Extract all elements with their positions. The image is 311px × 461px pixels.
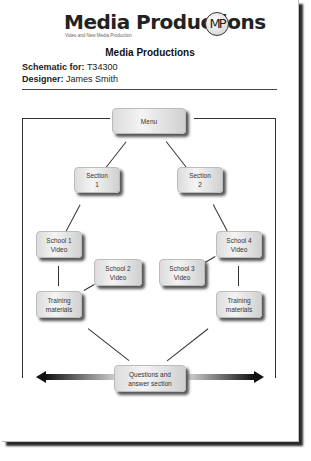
logo-text: Media Productions: [64, 10, 266, 34]
arrow-right-shaft: [184, 374, 254, 380]
node-label: School 1: [37, 236, 81, 245]
frame-top-right: [194, 118, 276, 119]
node-label: 2: [178, 180, 222, 189]
node-label: Training: [217, 296, 261, 305]
node-questions-answer-section: Questions and answer section: [114, 365, 186, 392]
frame-top-left: [22, 118, 110, 119]
node-school-4-video: School 4 Video: [216, 231, 262, 258]
node-label: Menu: [113, 117, 185, 126]
designer-value: James Smith: [66, 74, 118, 84]
schematic-label: Schematic for:: [22, 62, 85, 72]
designer-label: Designer:: [22, 74, 64, 84]
connector-school4-training: [238, 266, 239, 286]
node-label: Video: [95, 273, 141, 282]
frame-right: [275, 118, 276, 378]
logo-tagline: Video and New Media Production: [65, 33, 132, 38]
header-divider: [22, 89, 277, 90]
document-page: Media Productions Video and New Media Pr…: [2, 0, 299, 442]
connector-menu-section2: [165, 141, 186, 168]
node-menu: Menu: [112, 108, 186, 134]
connector-section1-school1: [65, 204, 80, 231]
connector-menu-section1: [105, 141, 126, 168]
node-label: Section: [178, 171, 222, 180]
node-label: Video: [37, 245, 81, 254]
node-label: materials: [217, 305, 261, 314]
document-title: Media Productions: [2, 47, 298, 58]
node-label: materials: [37, 305, 81, 314]
node-school-1-video: School 1 Video: [36, 231, 82, 258]
connector-section2-school4: [212, 204, 227, 231]
schematic-value: T34300: [87, 62, 118, 72]
logo-mark-icon: MP: [205, 12, 229, 36]
schematic-line: Schematic for: T34300: [22, 62, 117, 72]
node-section-2: Section 2: [177, 167, 223, 193]
designer-line: Designer: James Smith: [22, 74, 118, 84]
node-label: Questions and: [115, 370, 185, 379]
node-training-materials-left: Training materials: [36, 291, 82, 318]
arrow-right-head-icon: [254, 371, 264, 383]
node-label: Section: [75, 171, 119, 180]
connector-school2-training: [84, 284, 95, 291]
node-label: answer section: [115, 379, 185, 388]
connector-school3-school4: [205, 256, 216, 263]
node-label: Training: [37, 296, 81, 305]
node-label: Video: [160, 273, 204, 282]
node-label: School 3: [160, 264, 204, 273]
frame-left: [22, 118, 23, 378]
node-section-1: Section 1: [74, 167, 120, 193]
node-label: School 2: [95, 264, 141, 273]
connector-training-qa-left: [88, 328, 130, 361]
arrow-left-shaft: [45, 374, 115, 380]
connector-school1-training: [58, 266, 59, 286]
connector-training-qa-right: [167, 328, 209, 361]
node-label: Video: [217, 245, 261, 254]
node-label: School 4: [217, 236, 261, 245]
node-school-3-video: School 3 Video: [159, 259, 205, 286]
node-training-materials-right: Training materials: [216, 291, 262, 318]
node-label: 1: [75, 180, 119, 189]
node-school-2-video: School 2 Video: [94, 259, 142, 286]
